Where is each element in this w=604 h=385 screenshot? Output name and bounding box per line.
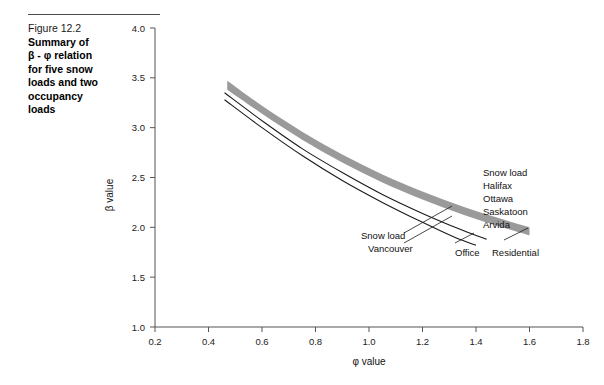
y-tick-label: 2.5 (132, 172, 145, 183)
figure-container: Figure 12.2 Summary of β - φ relation fo… (0, 0, 604, 385)
beta-phi-chart: 1.01.52.02.53.03.54.0 0.20.40.60.81.01.2… (0, 0, 604, 385)
snow-load-group-label-line: Arvida (483, 219, 511, 230)
axes: 1.01.52.02.53.03.54.0 0.20.40.60.81.01.2… (132, 23, 590, 348)
y-tick-label: 4.0 (132, 23, 145, 34)
y-axis-tick-labels: 1.01.52.02.53.03.54.0 (132, 23, 145, 333)
x-tick-label: 1.2 (416, 336, 429, 347)
x-tick-label: 0.6 (255, 336, 268, 347)
x-axis-title: φ value (352, 356, 386, 367)
office-label: Office (455, 247, 480, 258)
leader-line-vancouver-upper (404, 206, 452, 233)
snow-load-group-label-line: Saskatoon (483, 206, 528, 217)
snow-load-group-label-line: Halifax (483, 180, 512, 191)
y-tick-label: 3.0 (132, 122, 145, 133)
x-tick-label: 1.0 (362, 336, 375, 347)
y-tick-label: 2.0 (132, 222, 145, 233)
axis-titles: φ value β value (104, 178, 386, 367)
y-axis-ticks (150, 28, 155, 327)
residential-label: Residential (492, 247, 539, 258)
y-tick-label: 1.5 (132, 272, 145, 283)
x-axis-ticks (155, 327, 583, 332)
snow-load-group-label-line: Ottawa (483, 193, 514, 204)
x-axis-tick-labels: 0.20.40.60.81.01.21.41.61.8 (148, 336, 589, 347)
vancouver-label-line: Snow load (361, 230, 405, 241)
y-axis-title: β value (104, 178, 115, 211)
x-tick-label: 0.2 (148, 336, 161, 347)
x-tick-label: 1.6 (523, 336, 536, 347)
x-tick-label: 0.4 (202, 336, 215, 347)
y-tick-label: 1.0 (132, 322, 145, 333)
leader-line-vancouver-lower (404, 216, 452, 243)
snow-load-group-label-line: Snow load (483, 167, 527, 178)
x-tick-label: 0.8 (309, 336, 322, 347)
x-tick-label: 1.8 (576, 336, 589, 347)
y-tick-label: 3.5 (132, 72, 145, 83)
x-tick-label: 1.4 (469, 336, 482, 347)
vancouver-label-line: Vancouver (368, 243, 413, 254)
